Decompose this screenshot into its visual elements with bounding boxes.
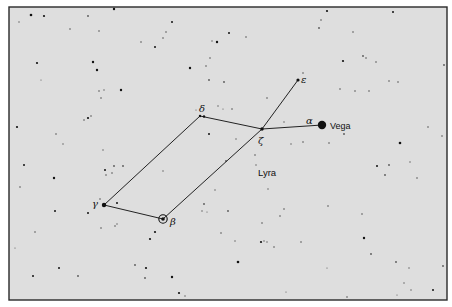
background-star xyxy=(409,161,410,162)
background-star xyxy=(442,265,444,267)
background-star xyxy=(403,282,404,283)
greek-letter-label: γ xyxy=(92,198,98,209)
greek-letter-label: δ xyxy=(199,103,205,114)
background-star xyxy=(165,31,167,33)
background-star xyxy=(343,133,345,135)
background-star xyxy=(408,267,409,268)
lyra-star-chart: αVegaβγδεζ Lyra xyxy=(0,0,452,307)
background-star xyxy=(266,97,268,99)
background-star xyxy=(362,55,364,57)
background-star xyxy=(416,177,418,179)
background-star xyxy=(62,143,63,144)
greek-letter-label: β xyxy=(169,216,176,227)
background-star xyxy=(397,81,399,83)
background-star xyxy=(43,15,45,17)
background-star xyxy=(234,240,235,241)
background-star xyxy=(396,294,397,295)
background-star xyxy=(231,108,233,110)
background-star xyxy=(318,27,320,29)
background-star xyxy=(14,247,15,248)
background-star xyxy=(18,21,19,22)
background-star xyxy=(363,237,365,239)
background-star xyxy=(87,15,89,17)
background-star xyxy=(273,246,275,248)
background-star xyxy=(103,89,104,90)
background-star xyxy=(100,97,102,99)
background-star xyxy=(432,289,434,291)
background-star xyxy=(16,126,18,128)
background-star xyxy=(203,203,205,205)
background-star xyxy=(208,79,210,81)
background-star xyxy=(384,174,386,176)
background-star xyxy=(36,62,38,64)
background-star xyxy=(162,37,164,39)
background-star xyxy=(77,275,79,277)
chart-frame xyxy=(9,7,447,300)
proper-name-label: Vega xyxy=(330,121,351,131)
background-star xyxy=(279,215,281,217)
background-star xyxy=(214,189,215,190)
background-star xyxy=(388,80,390,82)
background-star xyxy=(267,188,268,189)
greek-letter-label: α xyxy=(306,115,313,126)
background-star xyxy=(100,227,102,229)
background-star xyxy=(154,231,156,233)
companion-star-dot xyxy=(203,115,205,117)
background-star xyxy=(140,41,142,43)
background-star xyxy=(300,241,302,243)
background-star xyxy=(443,64,445,66)
background-star xyxy=(154,46,156,48)
background-star xyxy=(53,177,55,179)
background-star xyxy=(145,267,147,269)
background-star xyxy=(327,205,329,207)
background-star xyxy=(375,61,377,63)
background-star xyxy=(220,232,222,234)
background-star xyxy=(261,222,263,224)
background-star xyxy=(376,165,378,167)
background-star xyxy=(222,108,223,109)
background-star xyxy=(255,164,256,165)
background-star xyxy=(69,28,71,30)
background-star xyxy=(105,174,107,176)
greek-letter-label: ζ xyxy=(258,135,264,146)
background-star xyxy=(427,126,429,128)
background-star xyxy=(209,57,211,59)
background-star xyxy=(352,31,354,33)
background-star xyxy=(235,138,236,139)
background-star xyxy=(58,267,60,269)
background-star xyxy=(208,133,210,135)
background-star xyxy=(263,240,264,241)
background-star xyxy=(346,296,348,298)
background-star xyxy=(441,135,443,137)
star-dot xyxy=(102,203,106,207)
background-star xyxy=(87,212,89,214)
greek-letter-label: ε xyxy=(301,74,306,85)
background-star xyxy=(104,169,106,171)
background-star xyxy=(178,292,180,294)
background-star xyxy=(410,289,411,290)
background-star xyxy=(365,57,367,59)
background-star xyxy=(102,149,103,150)
background-star xyxy=(211,40,212,41)
background-star xyxy=(40,79,41,80)
background-star xyxy=(184,295,185,296)
background-star xyxy=(19,186,21,188)
star-dot xyxy=(161,217,165,221)
background-star xyxy=(32,275,34,277)
background-star xyxy=(149,238,151,240)
background-star xyxy=(399,142,402,145)
star-dot xyxy=(296,78,299,81)
background-star xyxy=(326,267,327,268)
star-dot xyxy=(318,121,326,129)
background-star xyxy=(116,223,117,224)
constellation-name-label: Lyra xyxy=(258,167,277,178)
background-star xyxy=(266,241,267,242)
background-star xyxy=(285,291,286,292)
background-star xyxy=(120,89,122,91)
background-star xyxy=(227,210,229,212)
background-star xyxy=(228,32,230,34)
background-star xyxy=(205,65,207,67)
background-star xyxy=(87,117,89,119)
background-star xyxy=(217,105,218,106)
background-star xyxy=(283,208,285,210)
